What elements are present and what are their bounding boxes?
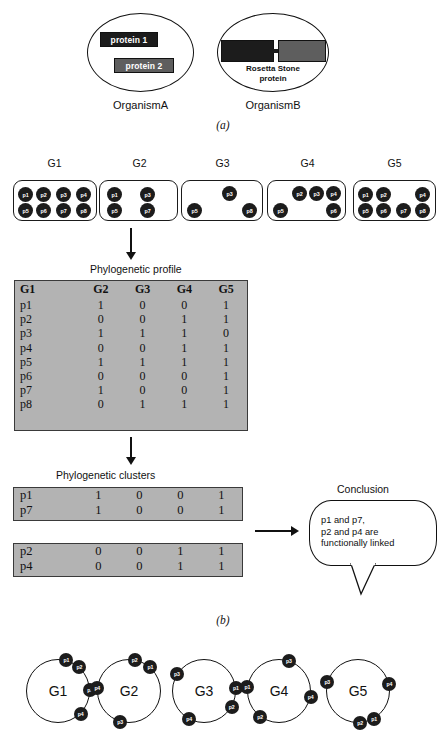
protein-dot: p3 — [170, 667, 184, 681]
cell-value: 0 — [78, 544, 119, 559]
cell-value: 0 — [205, 326, 247, 340]
column-header-g1: G1 — [15, 281, 80, 298]
protein-dot: p8 — [76, 203, 91, 218]
cell-value: 1 — [205, 298, 247, 312]
table-row: p3 1 1 1 0 — [15, 326, 247, 340]
cell-value: 1 — [201, 503, 242, 518]
protein-dot: p3 — [140, 187, 155, 202]
row-label: p7 — [14, 503, 78, 518]
protein-dot: p1 — [367, 712, 381, 726]
phylogenetic-cluster-1: p1 1 0 0 1 p7 1 0 0 1 — [13, 487, 243, 521]
rosetta-label-line2: protein — [259, 74, 286, 83]
protein-dot: p7 — [140, 203, 155, 218]
protein-dot: p6 — [36, 203, 51, 218]
phylogenetic-clusters-title: Phylogenetic clusters — [56, 469, 155, 481]
cell-value: 1 — [78, 503, 119, 518]
cell-value: 1 — [205, 383, 247, 397]
protein-dot: p4 — [90, 681, 104, 695]
cell-value: 1 — [201, 559, 242, 574]
protein-dot: p2 — [253, 710, 267, 724]
protein-dot: p5 — [187, 203, 202, 218]
cell-value: 1 — [122, 326, 164, 340]
cell-value: 0 — [119, 503, 160, 518]
cell-value: 0 — [163, 298, 205, 312]
protein-dot: p6 — [376, 203, 391, 218]
genome-circle-g2: G2 p2p1p4p3 — [93, 655, 165, 727]
genome-box-g5: p1 p2 p4 p5 p6 p7 p8 — [353, 180, 436, 221]
protein-dot: p4 — [304, 690, 318, 704]
cell-value: 1 — [122, 397, 164, 411]
genome-title-g3: G3 — [180, 157, 265, 169]
genome-title-g4: G4 — [265, 157, 350, 169]
row-label: p2 — [15, 312, 80, 326]
cell-value: 1 — [80, 355, 122, 369]
protein-1-box: protein 1 — [100, 32, 158, 47]
genome-box-g4: p2 p3 p4 p5 p6 — [267, 180, 346, 221]
cell-value: 0 — [163, 383, 205, 397]
organism-a-label: OrganismA — [87, 99, 194, 111]
cell-value: 0 — [78, 559, 119, 574]
protein-dot: p2 — [353, 716, 367, 730]
protein-dot: p3 — [309, 186, 324, 201]
cell-value: 0 — [160, 488, 201, 503]
row-label: p2 — [14, 544, 78, 559]
conclusion-line-2: p2 and p4 are — [321, 527, 378, 537]
cell-value: 0 — [80, 312, 122, 326]
protein-dot: p2 — [36, 187, 51, 202]
column-header-g4: G4 — [163, 281, 205, 298]
conclusion-line-3: functionally linked — [321, 538, 394, 548]
genome-circle-g1: G1 p1p2p3p4 — [22, 655, 94, 727]
cell-value: 1 — [163, 326, 205, 340]
cell-value: 1 — [122, 355, 164, 369]
column-header-g2: G2 — [80, 281, 122, 298]
table-row: p2 0 0 1 1 — [15, 312, 247, 326]
protein-dot: p2 — [292, 186, 307, 201]
row-label: p6 — [15, 369, 80, 383]
protein-dot: p2 — [128, 653, 142, 667]
protein-dot: p3 — [222, 186, 237, 201]
protein-dot: p1 — [18, 187, 33, 202]
protein-dot: p5 — [358, 203, 373, 218]
conclusion-text: p1 and p7, p2 and p4 are functionally li… — [321, 515, 433, 550]
table-row: p6 0 0 0 1 — [15, 369, 247, 383]
genome-circle-g4: G4 p3p4p1p2 — [243, 655, 315, 727]
cell-value: 1 — [78, 488, 119, 503]
row-label: p1 — [14, 488, 78, 503]
protein-dot: p2 — [376, 187, 391, 202]
cell-value: 0 — [122, 312, 164, 326]
callout-tail — [309, 558, 437, 600]
protein-dot: p1 — [240, 680, 254, 694]
cell-value: 0 — [122, 298, 164, 312]
phylogenetic-profile-title: Phylogenetic profile — [90, 263, 182, 275]
cell-value: 0 — [122, 369, 164, 383]
cell-value: 0 — [119, 544, 160, 559]
row-label: p4 — [14, 559, 78, 574]
arrow-to-clusters — [123, 437, 139, 465]
arrow-to-conclusion — [255, 524, 299, 538]
genome-title-g5: G5 — [352, 157, 437, 169]
phylogenetic-cluster-2: p2 0 0 1 1 p4 0 0 1 1 — [13, 543, 243, 577]
cell-value: 1 — [80, 326, 122, 340]
cell-value: 1 — [160, 559, 201, 574]
cell-value: 0 — [119, 559, 160, 574]
cell-value: 0 — [80, 369, 122, 383]
protein-dot: p2 — [225, 700, 239, 714]
cell-value: 0 — [160, 503, 201, 518]
cell-value: 1 — [163, 397, 205, 411]
cell-value: 0 — [80, 341, 122, 355]
row-label: p4 — [15, 341, 80, 355]
table-row: p2 0 0 1 1 — [14, 544, 242, 559]
protein-dot: p3 — [282, 654, 296, 668]
rosetta-segment-1 — [221, 40, 274, 62]
row-label: p8 — [15, 397, 80, 411]
panel-a-caption: (a) — [183, 119, 263, 131]
cell-value: 1 — [201, 544, 242, 559]
protein-dot: p5 — [107, 203, 122, 218]
organism-a-cell — [87, 13, 194, 92]
row-label: p1 — [15, 298, 80, 312]
protein-dot: p3 — [113, 715, 127, 729]
cell-value: 0 — [119, 488, 160, 503]
cell-value: 1 — [163, 341, 205, 355]
cell-value: 1 — [80, 383, 122, 397]
row-label: p7 — [15, 383, 80, 397]
